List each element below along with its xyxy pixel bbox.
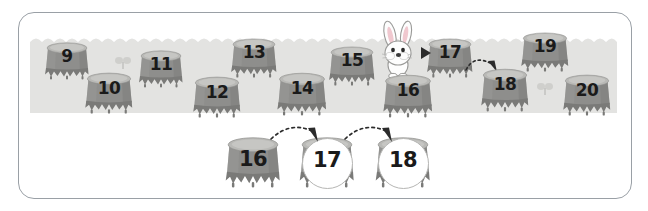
hop-arrow-16-to-17 bbox=[268, 120, 330, 146]
stump-13: 13 bbox=[228, 36, 280, 78]
stump-14: 14 bbox=[274, 70, 330, 116]
stump-15: 15 bbox=[326, 44, 378, 86]
stump-12: 12 bbox=[190, 74, 244, 118]
worksheet-canvas: 9 11 bbox=[0, 0, 648, 211]
stump-11: 11 bbox=[136, 48, 186, 88]
stump-18: 18 bbox=[478, 66, 532, 112]
hop-arrow-17-to-18 bbox=[342, 120, 404, 146]
stump-16: 16 bbox=[380, 72, 436, 118]
sprout-decoration-1 bbox=[114, 56, 132, 70]
rabbit-character bbox=[374, 20, 422, 80]
sprout-decoration-2 bbox=[536, 82, 554, 96]
stump-10: 10 bbox=[82, 70, 136, 114]
stump-20: 20 bbox=[560, 72, 614, 116]
